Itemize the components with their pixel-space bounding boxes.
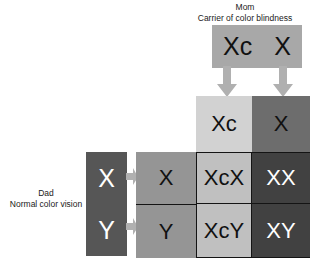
punnett-square-diagram: Mom Carrier of color blindness Dad Norma… bbox=[0, 0, 314, 266]
row-header-x: X bbox=[136, 152, 196, 204]
mother-genotype-box: Xc X bbox=[212, 25, 302, 68]
offspring-cell-xx: XX bbox=[252, 152, 310, 204]
mother-allele-xc: Xc bbox=[223, 34, 252, 59]
mother-allele-x: X bbox=[274, 34, 291, 59]
mother-label: Mom Carrier of color blindness bbox=[176, 2, 314, 23]
father-label: Dad Normal color vision bbox=[2, 188, 90, 209]
column-header-xc: Xc bbox=[196, 96, 252, 152]
offspring-cell-xcx: XcX bbox=[196, 152, 252, 204]
father-allele-y: Y bbox=[98, 218, 115, 243]
father-genotype-box: X Y bbox=[86, 152, 127, 256]
arrow-down-icon-mother-xc bbox=[216, 66, 238, 98]
offspring-cell-xy: XY bbox=[252, 204, 310, 258]
row-header-y: Y bbox=[136, 204, 196, 258]
arrow-down-icon-mother-x bbox=[272, 66, 294, 98]
column-header-x: X bbox=[252, 96, 310, 152]
offspring-cell-xcy: XcY bbox=[196, 204, 252, 258]
father-allele-x: X bbox=[98, 166, 115, 191]
